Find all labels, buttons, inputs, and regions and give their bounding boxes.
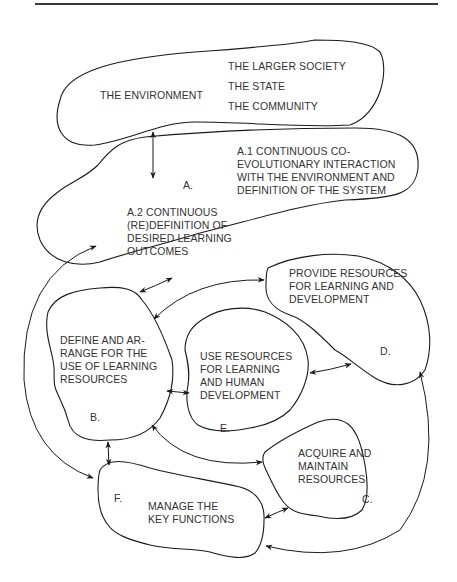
process-diagram: THE ENVIRONMENT THE LARGER SOCIETY THE S… [0, 0, 457, 582]
node-a1-line: EVOLUTIONARY INTERACTION [237, 158, 395, 170]
node-c-line: ACQUIRE AND [298, 447, 372, 459]
arrow-f-c [265, 508, 288, 518]
node-f-line: KEY FUNCTIONS [148, 513, 234, 525]
node-a1-line: A.1 CONTINUOUS CO- [237, 145, 351, 157]
node-a-letter: A. [183, 179, 193, 191]
node-d-letter: D. [380, 345, 391, 357]
node-e-letter: E. [220, 422, 230, 434]
node-b-line: DEFINE AND AR- [60, 334, 145, 346]
node-f-line: MANAGE THE [148, 500, 218, 512]
environment-item: THE COMMUNITY [228, 100, 318, 112]
node-d-line: DEVELOPMENT [289, 293, 370, 305]
node-b-line: USE OF LEARNING [60, 360, 157, 372]
node-e-line: AND HUMAN [200, 376, 265, 388]
environment-item: THE STATE [228, 80, 285, 92]
node-a2-line: DESIRED LEARNING [127, 232, 232, 244]
node-a2-line: OUTCOMES [127, 245, 188, 257]
arrow-b-c [152, 425, 262, 463]
node-b-line: RESOURCES [60, 373, 127, 385]
node-e-line: USE RESOURCES [200, 350, 292, 362]
arrow-b-d [154, 280, 264, 319]
arrow-e-d [310, 364, 351, 373]
node-a2-line: A.2 CONTINUOUS [127, 206, 218, 218]
node-f-letter: F. [114, 492, 122, 504]
node-e-line: FOR LEARNING [200, 363, 280, 375]
node-b-line: RANGE FOR THE [60, 347, 147, 359]
node-a1-line: WITH THE ENVIRONMENT AND [237, 171, 395, 183]
node-c-letter: C. [362, 493, 373, 505]
node-d-line: FOR LEARNING AND [289, 280, 394, 292]
node-c-line: MAINTAIN [298, 460, 348, 472]
arrow-a-b [140, 278, 172, 292]
node-e-line: DEVELOPMENT [200, 389, 281, 401]
environment-item: THE LARGER SOCIETY [228, 60, 346, 72]
node-a2-line: (RE)DEFINITION OF [127, 219, 227, 231]
node-a1-line: DEFINITION OF THE SYSTEM [237, 184, 386, 196]
environment-label: THE ENVIRONMENT [100, 89, 203, 101]
node-c-line: RESOURCES [298, 473, 365, 485]
node-b-letter: B. [90, 411, 100, 423]
node-d-line: PROVIDE RESOURCES [289, 267, 407, 279]
arrow-b-f [108, 442, 109, 465]
